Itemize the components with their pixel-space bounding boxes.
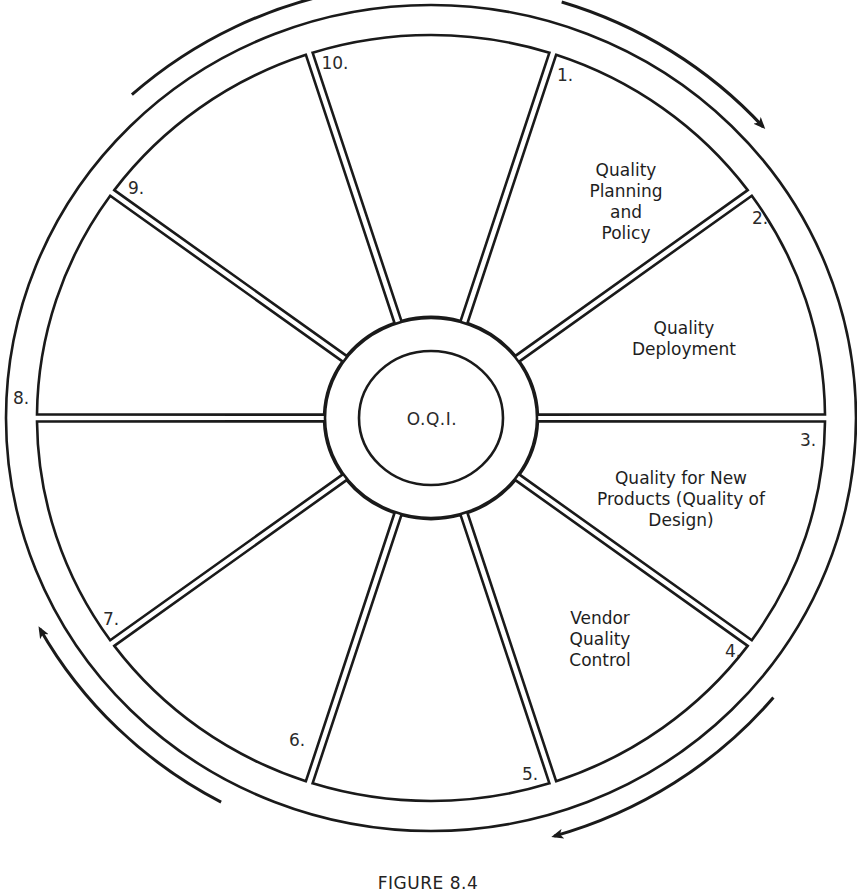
segment-title-line: and: [589, 202, 662, 223]
segment-title: VendorQualityControl: [569, 608, 630, 671]
segment-title-line: Quality: [569, 629, 630, 650]
segment-number: 7.: [103, 609, 119, 629]
hub-label-oqi: O.Q.I.: [407, 409, 457, 429]
wheel-segment: [114, 480, 394, 781]
segment-number: 10.: [321, 53, 348, 73]
wheel-segment: [37, 421, 342, 640]
segment-title-line: Products (Quality of: [597, 489, 765, 510]
bottom-right-clockwise-arrow-icon: [554, 698, 773, 837]
segment-number: 8.: [13, 388, 29, 408]
segment-number: 3.: [800, 430, 816, 450]
wheel-segment: [520, 196, 825, 415]
segment-number: 6.: [289, 730, 305, 750]
segment-title-line: Quality for New: [597, 468, 765, 489]
segment-title-line: Design): [597, 510, 765, 531]
segment-title-line: Deployment: [632, 339, 736, 360]
segment-number: 4.: [725, 641, 741, 661]
wheel-segment: [313, 35, 550, 321]
segment-title-line: Planning: [589, 181, 662, 202]
wheel-segment: [114, 55, 394, 356]
wheel-segment: [313, 515, 550, 801]
segment-title: QualityDeployment: [632, 318, 736, 360]
segment-title: QualityPlanningandPolicy: [589, 160, 662, 244]
segment-number: 2.: [752, 208, 768, 228]
bottom-left-clockwise-arrow-icon: [40, 629, 221, 802]
segment-title-line: Quality: [589, 160, 662, 181]
segment-number: 1.: [557, 65, 573, 85]
segment-title-line: Policy: [589, 223, 662, 244]
figure-caption: FIGURE 8.4: [378, 873, 478, 893]
segment-number: 9.: [128, 178, 144, 198]
segment-title-line: Control: [569, 650, 630, 671]
wheel-segment: [37, 196, 342, 415]
segment-title-line: Quality: [632, 318, 736, 339]
segment-title: Quality for NewProducts (Quality ofDesig…: [597, 468, 765, 531]
segment-number: 5.: [522, 764, 538, 784]
segment-title-line: Vendor: [569, 608, 630, 629]
